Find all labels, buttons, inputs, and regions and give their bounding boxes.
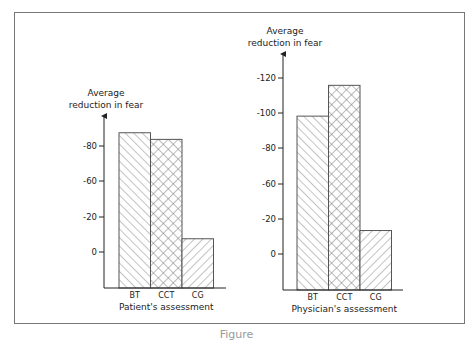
patient-assessment-chart: Averagereduction in fearBTCCTCG-80-60-20… bbox=[69, 88, 226, 312]
category-label: CCT bbox=[158, 291, 174, 300]
bar-cg bbox=[360, 231, 392, 290]
y-tick-label: -20 bbox=[262, 214, 276, 224]
category-label: CCT bbox=[336, 293, 352, 302]
bar-bt bbox=[297, 116, 329, 290]
y-tick-label: -100 bbox=[257, 108, 276, 118]
bar-cct bbox=[151, 139, 183, 288]
x-axis-label: Physician's assessment bbox=[291, 304, 397, 314]
y-axis-label: reduction in fear bbox=[69, 100, 144, 110]
y-axis-label: Average bbox=[88, 88, 125, 98]
y-tick-label: 0 bbox=[271, 249, 276, 259]
category-label: BT bbox=[308, 293, 318, 302]
bar-cg bbox=[182, 239, 214, 288]
bar-cct bbox=[329, 85, 361, 290]
physician-assessment-chart: Averagereduction in fearBTCCTCG-120-100-… bbox=[248, 26, 403, 314]
y-axis-label: reduction in fear bbox=[248, 38, 323, 48]
y-axis-label: Average bbox=[267, 26, 304, 36]
category-label: BT bbox=[130, 291, 140, 300]
bar-bt bbox=[119, 133, 151, 288]
y-tick-label: -120 bbox=[257, 73, 276, 83]
x-axis-label: Patient's assessment bbox=[119, 302, 214, 312]
y-tick-label: -20 bbox=[83, 212, 97, 222]
y-tick-label: 0 bbox=[92, 247, 97, 257]
figure-caption: Figure bbox=[0, 328, 473, 341]
y-tick-label: -60 bbox=[262, 179, 276, 189]
category-label: CG bbox=[370, 293, 382, 302]
category-label: CG bbox=[192, 291, 204, 300]
y-tick-label: -80 bbox=[83, 141, 97, 151]
y-tick-label: -80 bbox=[262, 143, 276, 153]
y-tick-label: -60 bbox=[83, 176, 97, 186]
